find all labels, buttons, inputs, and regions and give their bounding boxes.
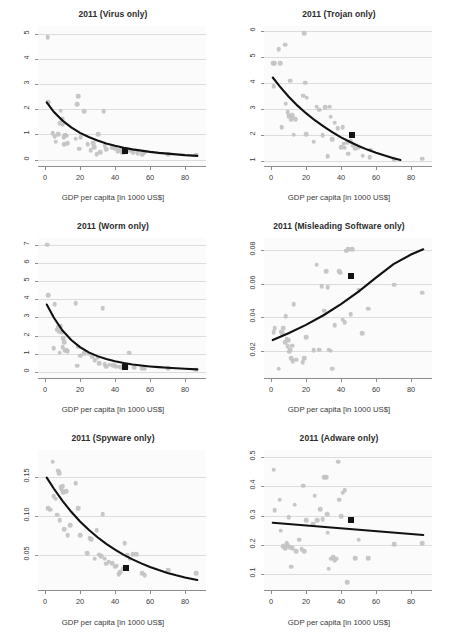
plot-area [38,238,206,378]
x-axis-label: GDP per capita [in 1000 US$] [226,193,452,202]
x-tick-mark [150,167,151,170]
x-tick-mark [185,167,186,170]
y-tick-label: 0.05 [16,549,36,558]
x-tick-label: 60 [372,173,380,182]
x-tick-label: 0 [269,385,273,394]
x-tick-mark [45,591,46,594]
x-tick-label: 80 [407,173,415,182]
x-tick-label: 60 [146,173,154,182]
x-tick-mark [150,591,151,594]
x-tick-label: 60 [146,385,154,394]
y-tick-label: 3 [16,311,36,320]
chart-panel-5: 2011 (Spyware only)Avg. # attacks per ho… [0,424,226,637]
x-tick-label: 60 [146,597,154,606]
x-axis-line [38,378,206,379]
y-tick-label: 0.4 [242,480,262,489]
mean-marker [349,132,355,138]
regression-curve [264,238,432,378]
x-tick-mark [185,591,186,594]
plot-canvas [38,450,206,590]
x-tick-mark [376,167,377,170]
x-axis-line [264,378,432,379]
y-tick-label: 0.15 [16,471,36,480]
y-tick-label: 5 [16,28,36,37]
x-tick-mark [341,591,342,594]
x-tick-mark [306,591,307,594]
x-tick-mark [411,379,412,382]
y-tick-label: 0.08 [242,244,262,253]
plot-area [264,450,432,590]
plot-canvas [264,450,432,590]
x-tick-label: 0 [43,385,47,394]
x-tick-mark [80,379,81,382]
x-tick-label: 20 [76,385,84,394]
mean-marker [348,273,354,279]
x-tick-mark [341,379,342,382]
x-tick-label: 40 [111,597,119,606]
y-tick-label: 6 [242,25,262,34]
y-tick-label: 2 [242,129,262,138]
chart-panel-1: 2011 (Virus only)Avg. # attacks per host… [0,0,226,212]
panel-title: 2011 (Trojan only) [226,9,452,19]
plot-canvas [264,26,432,166]
mean-marker [348,517,354,523]
y-tick-label: 1 [16,128,36,137]
y-tick-label: 5 [242,51,262,60]
y-tick-label: 2 [16,103,36,112]
y-tick-label: 1 [242,155,262,164]
x-axis-label: GDP per capita [in 1000 US$] [0,618,226,627]
x-tick-mark [271,167,272,170]
figure-grid: 2011 (Virus only)Avg. # attacks per host… [0,0,452,637]
x-axis-line [264,590,432,591]
x-tick-mark [45,167,46,170]
x-tick-label: 40 [111,385,119,394]
x-tick-mark [185,379,186,382]
plot-area [264,238,432,378]
plot-area [38,450,206,590]
x-axis-label: GDP per capita [in 1000 US$] [226,405,452,414]
y-tick-label: 5 [16,275,36,284]
y-tick-label: 0 [16,154,36,163]
x-tick-label: 60 [372,385,380,394]
y-tick-label: 0.5 [242,451,262,460]
x-tick-mark [376,379,377,382]
plot-area [264,26,432,166]
y-tick-label: 0.06 [242,278,262,287]
x-tick-mark [411,591,412,594]
chart-panel-3: 2011 (Worm only)Avg. # attacks per hostG… [0,212,226,424]
mean-marker [123,565,129,571]
x-axis-label: GDP per capita [in 1000 US$] [0,405,226,414]
y-tick-label: 0.3 [242,510,262,519]
x-tick-mark [115,167,116,170]
x-tick-mark [271,379,272,382]
x-tick-label: 0 [269,597,273,606]
regression-curve [264,26,432,166]
x-axis-line [264,166,432,167]
mean-marker [122,148,128,154]
x-tick-mark [80,167,81,170]
x-tick-label: 80 [407,597,415,606]
chart-panel-4: 2011 (Misleading Software only)Avg. # at… [226,212,452,424]
chart-panel-2: 2011 (Trojan only)Avg. # attacks per hos… [226,0,452,212]
y-tick-label: 0.02 [242,345,262,354]
plot-area [38,26,206,166]
y-tick-label: 4 [16,53,36,62]
y-tick-label: 0.2 [242,539,262,548]
panel-title: 2011 (Spyware only) [0,433,226,443]
x-tick-label: 80 [181,173,189,182]
x-tick-label: 40 [111,173,119,182]
plot-canvas [264,238,432,378]
x-axis-label: GDP per capita [in 1000 US$] [0,193,226,202]
x-tick-label: 0 [269,173,273,182]
y-tick-label: 6 [16,257,36,266]
y-tick-label: 0.04 [242,311,262,320]
y-tick-label: 7 [16,239,36,248]
x-tick-mark [341,167,342,170]
x-tick-label: 80 [407,385,415,394]
y-tick-label: 1 [16,348,36,357]
panel-title: 2011 (Misleading Software only) [226,221,452,231]
x-tick-mark [306,379,307,382]
x-tick-label: 0 [43,597,47,606]
y-tick-label: 0.1 [242,568,262,577]
x-tick-label: 20 [302,173,310,182]
